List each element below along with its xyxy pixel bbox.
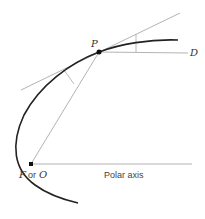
- angle-marker-left: [64, 70, 74, 84]
- label-or: or: [28, 170, 36, 180]
- label-polar-axis: Polar axis: [104, 170, 144, 180]
- polar-conic-diagram: P D F or O Polar axis: [0, 0, 205, 219]
- label-f: F: [18, 169, 27, 180]
- line-pd: [99, 52, 188, 53]
- label-p: P: [90, 38, 98, 49]
- point-p-dot: [97, 50, 102, 55]
- label-o: O: [39, 169, 47, 180]
- point-f-dot: [29, 162, 33, 166]
- label-d: D: [189, 47, 198, 58]
